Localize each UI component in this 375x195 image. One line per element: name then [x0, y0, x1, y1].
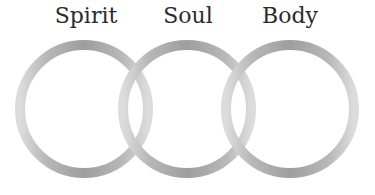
label-body: Body [262, 2, 318, 30]
label-spirit: Spirit [55, 2, 118, 30]
label-soul: Soul [163, 2, 213, 30]
ring-body [226, 45, 354, 173]
ring-spirit [20, 45, 148, 173]
ring-soul [123, 45, 251, 173]
